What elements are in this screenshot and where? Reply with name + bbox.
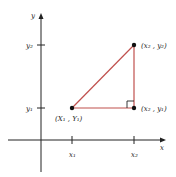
tick-label-x1: x₁ [69,151,76,159]
point-p1 [70,106,74,110]
point-label-p3: (x₂ , y₁) [141,105,167,113]
right-triangle [72,45,134,108]
hypotenuse [72,45,134,108]
point-p2 [132,43,136,47]
tick-label-x2: x₂ [131,151,138,159]
y-axis-arrow-icon [39,13,44,19]
tick-label-y1: y₁ [25,105,33,113]
point-label-p2: (x₂ , y₂) [141,42,167,50]
point-label-p1: (X₁ , Y₁) [55,115,83,123]
x-axis-arrow-icon [160,138,166,143]
tick-label-y2: y₂ [25,42,33,50]
point-p3 [132,106,136,110]
y-axis-label: y [30,12,36,20]
x-axis-label: x [160,144,164,152]
distance-diagram: x y x₁ x₂ y₂ y₁ (X₁ , Y₁) (x₂ , y₂) (x₂ … [0,0,176,177]
